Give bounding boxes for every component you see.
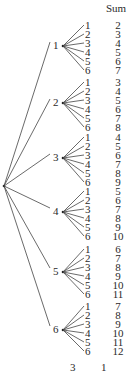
sum-column-header: Sum [106,2,126,14]
leaf-branch-line [63,315,84,330]
first-die-label: 2 [53,97,59,108]
leaf-branch-line [63,158,84,173]
leaf-branch-line [63,103,84,118]
second-die-label: 6 [85,289,91,300]
leaf-branch-line [63,212,84,227]
leaf-branch-line [63,103,84,127]
second-die-label: 6 [85,231,91,242]
sum-value: 10 [106,231,130,242]
second-die-label: 6 [85,346,91,357]
root-branch-line [4,42,50,186]
first-die-label: 3 [53,152,59,163]
first-die-label: 4 [53,206,59,217]
leaf-branch-line [63,212,84,236]
leaf-branch-line [63,306,84,330]
second-die-label: 6 [85,65,91,76]
root-branch-line [4,154,50,186]
root-branch-line [4,186,50,208]
first-die-label: 6 [53,324,59,335]
leaf-branch-line [63,158,84,182]
root-branch-line [4,99,50,186]
sum-value: 7 [106,65,130,76]
first-die-label: 1 [53,40,59,51]
leaf-branch-line [63,46,84,70]
leaf-branch-line [63,46,84,61]
sum-value: 12 [106,346,130,357]
footer-value-b: 1 [101,362,107,373]
sum-value: 11 [106,289,130,300]
first-die-label: 5 [53,266,59,277]
footer-value-a: 3 [70,362,76,373]
